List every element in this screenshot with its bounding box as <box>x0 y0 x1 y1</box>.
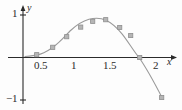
y-axis <box>21 5 26 104</box>
x-tick-label-1: 1 <box>71 60 76 71</box>
y-tick-label-minus-1: −1 <box>6 93 18 104</box>
data-point-markers <box>35 18 164 100</box>
plot-figure: 0.5 1 1.5 2 1 −1 x y <box>0 0 182 110</box>
x-axis-label: x <box>167 57 171 67</box>
x-tick-label-0.5: 0.5 <box>34 60 47 71</box>
y-tick-label-1: 1 <box>12 8 17 19</box>
plot-canvas <box>0 0 182 110</box>
x-tick-label-2: 2 <box>153 60 158 71</box>
x-tick-label-1.5: 1.5 <box>103 60 116 71</box>
y-axis-label: y <box>27 3 31 13</box>
